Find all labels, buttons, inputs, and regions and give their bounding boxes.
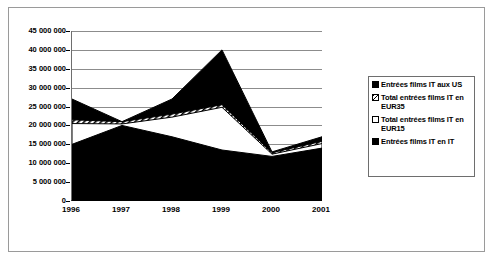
white-swatch-icon bbox=[372, 116, 379, 123]
y-tick-mark bbox=[66, 125, 70, 126]
y-tick-label: 35 000 000 bbox=[2, 65, 66, 73]
y-tick-mark bbox=[66, 201, 70, 202]
legend-item-label: Total entrées films IT en EUR15 bbox=[381, 115, 472, 134]
y-tick-label: 40 000 000 bbox=[2, 46, 66, 54]
y-tick-mark bbox=[66, 31, 70, 32]
legend-item-label: Entrées films IT en IT bbox=[381, 137, 454, 147]
y-tick-label: 25 000 000 bbox=[2, 103, 66, 111]
y-tick-mark bbox=[66, 182, 70, 183]
legend-item-label: Entrées films IT aux US bbox=[381, 80, 462, 90]
x-tick-label: 1996 bbox=[48, 205, 94, 215]
legend-item-label: Total entrées films IT en EUR35 bbox=[381, 93, 472, 112]
x-axis: 1996 1997 1998 1999 2000 2001 bbox=[71, 205, 321, 219]
chart-figure: 45 000 000 40 000 000 35 000 000 30 000 … bbox=[0, 0, 494, 261]
y-tick-label: 5 000 000 bbox=[2, 178, 66, 186]
y-tick-mark bbox=[66, 163, 70, 164]
x-tick-label: 2000 bbox=[248, 205, 294, 215]
hatched-swatch-icon bbox=[372, 94, 379, 101]
area-series-group bbox=[72, 31, 322, 201]
x-tick-label: 1999 bbox=[198, 205, 244, 215]
y-tick-label: 15 000 000 bbox=[2, 140, 66, 148]
y-tick-label: 30 000 000 bbox=[2, 84, 66, 92]
y-tick-mark bbox=[66, 50, 70, 51]
y-tick-mark bbox=[66, 88, 70, 89]
y-tick-label: 45 000 000 bbox=[2, 27, 66, 35]
chart-legend: Entrées films IT aux US Total entrées fi… bbox=[368, 76, 475, 177]
y-axis: 45 000 000 40 000 000 35 000 000 30 000 … bbox=[0, 31, 66, 201]
y-tick-label: 0 bbox=[2, 197, 66, 205]
y-tick-mark bbox=[66, 144, 70, 145]
x-tick-label: 1997 bbox=[98, 205, 144, 215]
black-swatch-icon bbox=[372, 81, 379, 88]
y-tick-label: 20 000 000 bbox=[2, 121, 66, 129]
legend-item[interactable]: Total entrées films IT en EUR15 bbox=[372, 115, 472, 134]
x-tick-label: 2001 bbox=[298, 205, 344, 215]
black-swatch-icon bbox=[372, 138, 379, 145]
y-tick-label: 10 000 000 bbox=[2, 159, 66, 167]
legend-item[interactable]: Entrées films IT en IT bbox=[372, 137, 472, 147]
x-tick-label: 1998 bbox=[148, 205, 194, 215]
y-tick-mark bbox=[66, 107, 70, 108]
plot-area bbox=[71, 31, 321, 201]
y-tick-mark bbox=[66, 69, 70, 70]
legend-item[interactable]: Entrées films IT aux US bbox=[372, 80, 472, 90]
legend-item[interactable]: Total entrées films IT en EUR35 bbox=[372, 93, 472, 112]
